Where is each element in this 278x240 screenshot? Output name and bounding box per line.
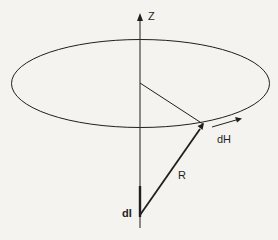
r-label: R	[178, 170, 186, 181]
dh-vector-arrowhead-icon	[235, 117, 242, 123]
z-axis-label: Z	[148, 11, 155, 22]
radius-line	[140, 83, 203, 124]
diagram-canvas	[0, 0, 278, 240]
r-vector-arrowhead-icon	[198, 123, 205, 130]
dh-vector-line	[212, 120, 236, 127]
current-element-label: dI	[122, 208, 132, 219]
z-axis-arrowhead-icon	[137, 13, 143, 21]
dh-label: dH	[217, 134, 231, 145]
r-vector-line	[140, 129, 200, 215]
